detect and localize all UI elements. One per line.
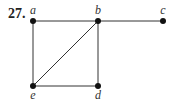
node-b [95,18,101,24]
node-label-c: c [160,3,166,17]
node-a [30,18,36,24]
node-label-d: d [95,88,102,101]
node-label-a: a [30,3,36,17]
node-c [160,18,166,24]
node-label-e: e [30,88,36,101]
node-label-b: b [95,3,101,17]
edge-b-e [33,21,98,86]
graph-diagram: abced [0,0,176,101]
